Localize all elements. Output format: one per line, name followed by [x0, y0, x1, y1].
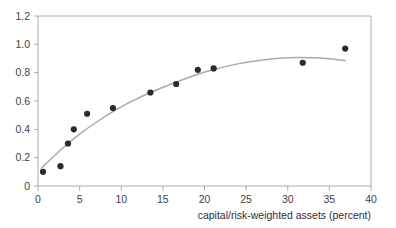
data-point	[84, 111, 90, 117]
x-tick-label: 10	[115, 193, 127, 205]
x-axis-title: capital/risk-weighted assets (percent)	[198, 209, 371, 221]
plot-frame	[38, 16, 371, 186]
data-point	[195, 67, 201, 73]
x-tick-label: 20	[199, 193, 211, 205]
data-point	[71, 126, 77, 132]
x-tick-label: 35	[324, 193, 336, 205]
x-axis-tick-labels: 0510152025303540	[35, 193, 377, 205]
data-point	[342, 45, 348, 51]
x-tick-label: 30	[282, 193, 294, 205]
x-tick-label: 0	[35, 193, 41, 205]
data-point	[65, 140, 71, 146]
x-axis-ticks	[38, 186, 371, 191]
data-point	[211, 65, 217, 71]
data-point	[110, 105, 116, 111]
y-tick-label: 1.0	[15, 38, 30, 50]
data-point	[147, 89, 153, 95]
x-tick-label: 40	[365, 193, 377, 205]
x-tick-label: 25	[240, 193, 252, 205]
x-tick-label: 15	[157, 193, 169, 205]
y-tick-label: 0.4	[15, 123, 30, 135]
data-points-group	[40, 45, 348, 174]
y-axis-tick-labels: 00.20.40.60.81.01.2	[15, 10, 30, 192]
y-tick-label: 0.2	[15, 151, 30, 163]
x-tick-label: 5	[77, 193, 83, 205]
y-tick-label: 0.8	[15, 66, 30, 78]
y-tick-label: 0	[24, 180, 30, 192]
data-point	[300, 60, 306, 66]
y-tick-label: 1.2	[15, 10, 30, 22]
y-tick-label: 0.6	[15, 95, 30, 107]
data-point	[57, 163, 63, 169]
data-point	[40, 169, 46, 175]
chart-container: 00.20.40.60.81.01.2 0510152025303540 cap…	[0, 0, 396, 228]
data-point	[173, 81, 179, 87]
y-axis-ticks	[34, 16, 38, 186]
scatter-plot: 00.20.40.60.81.01.2 0510152025303540 cap…	[0, 0, 396, 228]
